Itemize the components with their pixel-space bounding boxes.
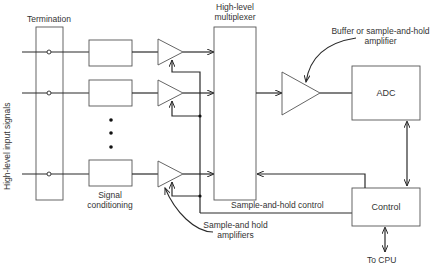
- signal-conditioning-blocks: [89, 40, 132, 186]
- sample-hold-amplifiers: [158, 39, 183, 187]
- terminal-circles: [47, 50, 51, 176]
- sample-hold-amplifiers-line2: amplifiers: [198, 230, 273, 240]
- sample-hold-control-bus: [172, 60, 352, 213]
- input-lines: [22, 52, 89, 174]
- buffer-label-line1: Buffer or sample-and-hold: [318, 26, 443, 36]
- signal-conditioning-line2: conditioning: [80, 200, 140, 210]
- buffer-label: Buffer or sample-and-hold amplifier: [318, 26, 443, 46]
- multiplexer-label: High-level multiplexer: [205, 2, 265, 22]
- to-cpu-label: To CPU: [367, 255, 396, 265]
- ellipsis-dots: [109, 118, 113, 149]
- termination-label: Termination: [27, 14, 71, 24]
- sample-hold-amplifiers-label: Sample-and hold amplifiers: [198, 220, 273, 240]
- sample-hold-amplifiers-line1: Sample-and hold: [198, 220, 273, 230]
- sample-hold-control-label: Sample-and-hold control: [231, 200, 324, 210]
- buffer-label-line2: amplifier: [318, 36, 443, 46]
- multiplexer-label-line2: multiplexer: [205, 12, 265, 22]
- adc-label: ADC: [352, 88, 420, 98]
- control-label: Control: [352, 202, 420, 212]
- input-signals-label: High-level input signals: [2, 103, 12, 190]
- multiplexer-block: [214, 27, 256, 200]
- multiplexer-label-line1: High-level: [205, 2, 265, 12]
- signal-conditioning-line1: Signal: [80, 190, 140, 200]
- buffer-amplifier: [282, 72, 320, 115]
- signal-conditioning-label: Signal conditioning: [80, 190, 140, 210]
